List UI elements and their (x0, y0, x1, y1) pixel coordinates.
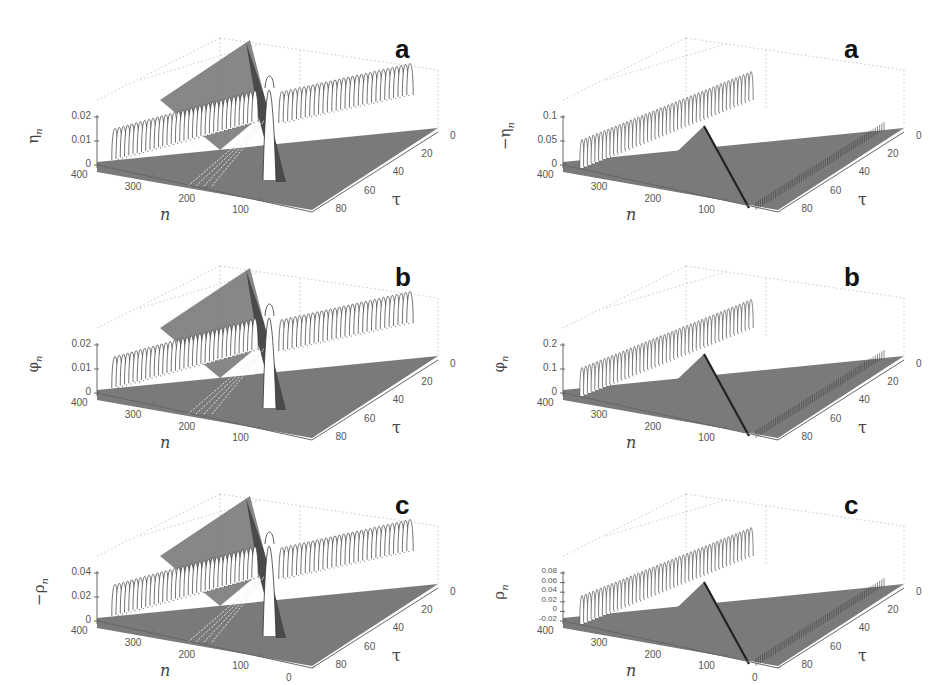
n-tick-label: 100 (698, 432, 715, 443)
z-axis-subscript: n (499, 356, 510, 362)
tau-tick-label: 40 (859, 166, 870, 177)
tau-tick-label: 40 (393, 394, 404, 405)
chart-panel-left-c: c−ρn0.040.0204003002001000020406080nτ (0, 456, 466, 684)
tau-axis-label: τ (392, 646, 401, 665)
z-tick-label: 0.05 (538, 134, 557, 145)
chart-panel-right-c: cρn0.080.060.040.020-0.02400300200100002… (466, 456, 932, 684)
n-tick-label: 300 (591, 637, 608, 648)
tau-tick-label: 80 (335, 431, 346, 442)
z-axis-label: φn (24, 356, 44, 373)
tau-tick-label: 60 (830, 413, 841, 424)
n-tick-label: 0 (752, 672, 758, 683)
z-axis-subscript: n (33, 128, 44, 134)
z-tick-label: 0 (553, 604, 557, 613)
z-axis-symbol: ρ (490, 591, 508, 600)
n-tick-label: 400 (537, 625, 554, 636)
z-axis-label: −ρn (30, 578, 50, 606)
panel-letter: a (395, 34, 409, 65)
tau-tick-label: 60 (830, 185, 841, 196)
z-tick-label: 0.02 (541, 595, 557, 604)
n-tick-label: 400 (71, 625, 88, 636)
z-tick-label: 0.02 (72, 590, 91, 601)
panel-letter: b (844, 262, 860, 293)
tau-tick-label: 0 (450, 358, 456, 369)
z-axis-label: ηn (24, 128, 44, 143)
n-tick-label: 0 (286, 672, 292, 683)
n-tick-label: 300 (125, 409, 142, 420)
z-tick-label: -0.02 (539, 614, 557, 623)
tau-tick-label: 60 (364, 413, 375, 424)
z-tick-label: 0 (85, 614, 91, 625)
panel-letter: a (844, 34, 858, 65)
tau-tick-label: 80 (335, 659, 346, 670)
n-tick-label: 100 (232, 432, 249, 443)
tau-tick-label: 0 (450, 586, 456, 597)
tau-tick-label: 80 (801, 659, 812, 670)
z-tick-label: 0.1 (543, 362, 557, 373)
z-axis-symbol: η (24, 135, 42, 144)
z-tick-label: 0 (85, 158, 91, 169)
tau-axis-label: τ (858, 646, 867, 665)
n-axis-label: n (626, 433, 636, 452)
n-tick-label: 300 (125, 181, 142, 192)
z-axis-label: φn (490, 356, 510, 373)
z-axis-label: −ηn (496, 122, 516, 150)
z-tick-label: 0.02 (72, 110, 91, 121)
z-tick-label: 0 (85, 386, 91, 397)
z-axis-subscript: n (39, 578, 50, 584)
z-tick-label: 0.04 (72, 566, 91, 577)
n-tick-label: 400 (537, 397, 554, 408)
z-tick-label: 0.2 (543, 338, 557, 349)
z-axis-label: ρn (490, 584, 510, 599)
z-axis-symbol: −η (496, 128, 514, 150)
tau-tick-label: 80 (335, 203, 346, 214)
chart-panel-left-a: aηn0.020.010400300200100020406080nτ (0, 0, 466, 228)
z-tick-label: 0.08 (541, 566, 557, 575)
chart-panel-right-a: a−ηn0.10.050400300200100020406080nτ (466, 0, 932, 228)
tau-tick-label: 60 (830, 641, 841, 652)
z-axis-symbol: φ (24, 362, 42, 373)
n-axis-label: n (160, 433, 170, 452)
tau-tick-label: 20 (421, 604, 432, 615)
n-tick-label: 200 (645, 193, 662, 204)
z-axis-subscript: n (33, 356, 44, 362)
tau-tick-label: 40 (859, 394, 870, 405)
tau-tick-label: 60 (364, 641, 375, 652)
tau-tick-label: 20 (887, 148, 898, 159)
n-axis-label: n (160, 205, 170, 224)
tau-tick-label: 0 (916, 358, 922, 369)
z-tick-label: 0.04 (541, 585, 557, 594)
tau-axis-label: τ (392, 190, 401, 209)
z-tick-label: 0.1 (543, 110, 557, 121)
tau-tick-label: 0 (450, 130, 456, 141)
n-tick-label: 400 (71, 397, 88, 408)
tau-tick-label: 80 (801, 203, 812, 214)
tau-tick-label: 20 (421, 148, 432, 159)
z-tick-label: 0.02 (72, 338, 91, 349)
n-tick-label: 100 (698, 204, 715, 215)
n-tick-label: 100 (232, 204, 249, 215)
z-axis-symbol: −ρ (30, 585, 48, 606)
chart-panel-left-b: bφn0.020.010400300200100020406080nτ (0, 228, 466, 456)
z-tick-label: 0.01 (72, 362, 91, 373)
tau-tick-label: 0 (916, 586, 922, 597)
n-tick-label: 200 (179, 649, 196, 660)
z-axis-subscript: n (505, 122, 516, 128)
n-tick-label: 200 (645, 649, 662, 660)
tau-tick-label: 80 (801, 431, 812, 442)
z-tick-label: 0.06 (541, 576, 557, 585)
n-tick-label: 400 (537, 169, 554, 180)
z-axis-symbol: φ (490, 362, 508, 373)
n-tick-label: 200 (179, 421, 196, 432)
n-tick-label: 200 (645, 421, 662, 432)
tau-tick-label: 20 (421, 376, 432, 387)
tau-axis-label: τ (392, 418, 401, 437)
n-axis-label: n (160, 661, 170, 680)
n-axis-label: n (626, 661, 636, 680)
tau-tick-label: 40 (393, 166, 404, 177)
tau-axis-label: τ (858, 418, 867, 437)
chart-panel-right-b: bφn0.20.10400300200100020406080nτ (466, 228, 932, 456)
panel-letter: c (395, 490, 409, 521)
panel-letter: c (844, 490, 858, 521)
tau-tick-label: 20 (887, 376, 898, 387)
